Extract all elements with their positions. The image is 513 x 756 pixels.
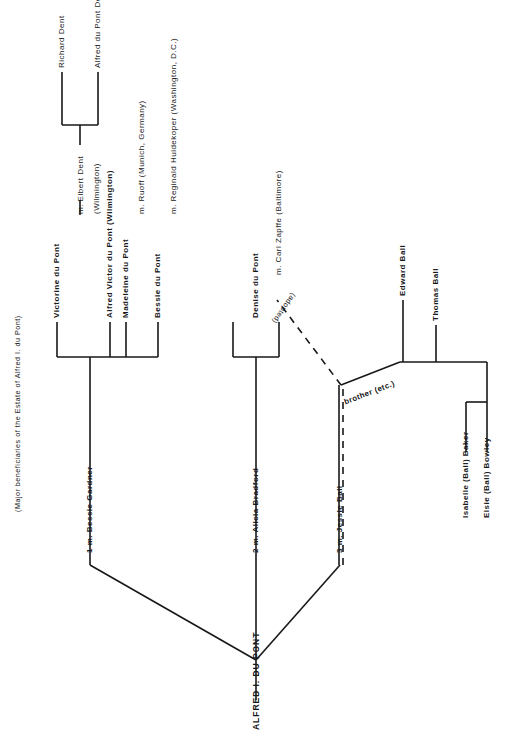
genealogy-chart: (Major beneficiaries of the Estate of Al…	[0, 0, 513, 756]
branch-to-m3	[256, 565, 340, 660]
branch-to-m1	[90, 565, 256, 660]
adopted-link	[277, 300, 341, 385]
tree-lines	[0, 0, 513, 756]
m3-to-ball-junction	[341, 362, 400, 385]
